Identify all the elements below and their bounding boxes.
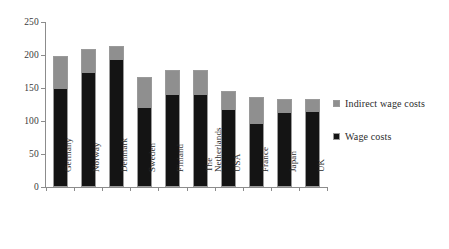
plot-area: 050100150200250 [46,22,327,187]
y-axis-line [45,22,46,187]
bar-segment-indirect-wage-costs [54,57,67,88]
legend-item: Indirect wage costs [333,97,425,109]
x-axis-category-label: UK [317,159,326,172]
x-axis-tick [102,187,103,191]
y-axis-tick-label: 200 [24,50,39,60]
x-axis-category-label: Norway [92,142,101,172]
y-axis-tick [41,154,46,155]
x-axis-tick [271,187,272,191]
x-axis-category-label: Denmark [120,138,129,172]
x-axis-tick [327,187,328,191]
y-axis-tick-label: 0 [34,182,39,192]
y-axis-tick-label: 250 [24,17,39,27]
x-axis-tick [130,187,131,191]
bar-segment-wage-costs [222,110,235,186]
bar-segment-indirect-wage-costs [250,98,263,124]
bar-segment-indirect-wage-costs [138,78,151,108]
bar-segment-indirect-wage-costs [306,100,319,113]
y-axis-tick [41,88,46,89]
bar-segment-indirect-wage-costs [82,50,95,73]
legend-item-label: Wage costs [345,131,392,142]
legend-swatch-icon [333,133,340,140]
x-axis-tick [46,187,47,191]
y-axis-tick-label: 50 [29,149,39,159]
y-axis-tick [41,22,46,23]
x-axis-category-label: Japan [289,151,298,172]
chart-figure: 050100150200250 GermanyNorwayDenmarkSwed… [0,0,449,249]
x-axis-tick [158,187,159,191]
y-axis-tick [41,55,46,56]
stacked-bar [249,97,264,187]
chart-legend: Indirect wage costsWage costs [333,97,425,163]
x-axis-category-label: USA [233,154,242,172]
bar-segment-indirect-wage-costs [166,71,179,96]
bar-segment-indirect-wage-costs [110,47,123,59]
x-axis-tick [187,187,188,191]
x-axis-tick [299,187,300,191]
legend-item: Wage costs [333,130,425,142]
x-axis-tick [74,187,75,191]
x-axis-tick [215,187,216,191]
y-axis-tick [41,121,46,122]
legend-swatch-icon [333,100,340,107]
y-axis-tick-label: 150 [24,83,39,93]
x-axis-category-label: Sweden [148,143,157,172]
x-axis-category-label: Finland [176,144,185,172]
bar-segment-wage-costs [278,113,291,186]
x-axis-category-label: France [261,147,270,172]
x-axis-category-label: The Netherlands [205,127,224,172]
legend-item-label: Indirect wage costs [345,98,425,109]
x-axis-category-label: Germany [64,138,73,172]
bar-segment-indirect-wage-costs [222,92,235,110]
stacked-bar [277,99,292,187]
bar-segment-wage-costs [306,112,319,186]
bar-segment-wage-costs [166,95,179,186]
stacked-bar [305,99,320,187]
bar-segment-indirect-wage-costs [194,71,207,95]
y-axis-tick-label: 100 [24,116,39,126]
x-axis-tick [243,187,244,191]
bar-segment-indirect-wage-costs [278,100,291,114]
